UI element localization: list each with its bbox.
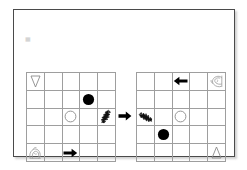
source-cell-0-1[interactable]	[45, 73, 63, 91]
arrow-left-solid-icon	[173, 73, 190, 90]
source-cell-4-0[interactable]	[27, 144, 45, 162]
source-cell-3-3[interactable]	[80, 126, 98, 144]
target-cell-4-4[interactable]	[208, 144, 226, 162]
target-cell-2-1[interactable]	[155, 109, 173, 127]
triangle-down-outline-icon	[27, 73, 44, 90]
transform-arrow-icon	[118, 108, 132, 120]
target-cell-3-4[interactable]	[208, 126, 226, 144]
source-cell-0-0[interactable]	[27, 73, 45, 91]
source-cell-4-1[interactable]	[45, 144, 63, 162]
target-cell-2-0[interactable]	[137, 109, 155, 127]
source-cell-1-2[interactable]	[63, 91, 81, 109]
target-cell-1-0[interactable]	[137, 91, 155, 109]
source-cell-3-1[interactable]	[45, 126, 63, 144]
source-cell-2-1[interactable]	[45, 109, 63, 127]
target-cell-4-1[interactable]	[155, 144, 173, 162]
target-cell-1-4[interactable]	[208, 91, 226, 109]
source-cell-2-4[interactable]	[98, 109, 116, 127]
source-cell-2-0[interactable]	[27, 109, 45, 127]
source-cell-3-0[interactable]	[27, 126, 45, 144]
source-cell-0-2[interactable]	[63, 73, 81, 91]
circle-filled-icon	[80, 91, 97, 108]
circle-filled-icon	[155, 126, 172, 143]
source-cell-0-4[interactable]	[98, 73, 116, 91]
target-cell-1-2[interactable]	[173, 91, 191, 109]
puzzle-card: ▦	[13, 9, 235, 157]
target-cell-0-0[interactable]	[137, 73, 155, 91]
source-grid[interactable]	[26, 72, 116, 162]
target-cell-2-3[interactable]	[190, 109, 208, 127]
source-cell-1-4[interactable]	[98, 91, 116, 109]
source-cell-3-4[interactable]	[98, 126, 116, 144]
faint-corner-glyph: ▦	[25, 36, 31, 42]
source-cell-2-3[interactable]	[80, 109, 98, 127]
target-cell-0-2[interactable]	[173, 73, 191, 91]
source-cell-4-4[interactable]	[98, 144, 116, 162]
target-cell-1-3[interactable]	[190, 91, 208, 109]
source-cell-0-3[interactable]	[80, 73, 98, 91]
target-cell-3-1[interactable]	[155, 126, 173, 144]
source-cell-2-2[interactable]	[63, 109, 81, 127]
target-cell-2-2[interactable]	[173, 109, 191, 127]
target-cell-0-4[interactable]	[208, 73, 226, 91]
source-cell-4-2[interactable]	[63, 144, 81, 162]
target-grid[interactable]	[136, 72, 226, 162]
target-cell-3-3[interactable]	[190, 126, 208, 144]
bird-sketch-rotated-icon	[137, 109, 154, 126]
scribble-sketch-icon	[27, 144, 44, 161]
bird-sketch-icon	[98, 109, 115, 126]
source-cell-1-0[interactable]	[27, 91, 45, 109]
target-cell-0-1[interactable]	[155, 73, 173, 91]
target-cell-4-2[interactable]	[173, 144, 191, 162]
source-cell-1-1[interactable]	[45, 91, 63, 109]
circle-outline-icon	[173, 109, 190, 126]
scribble-sketch-icon	[208, 73, 225, 90]
source-cell-1-3[interactable]	[80, 91, 98, 109]
target-cell-2-4[interactable]	[208, 109, 226, 127]
source-cell-4-3[interactable]	[80, 144, 98, 162]
target-cell-4-0[interactable]	[137, 144, 155, 162]
triangle-up-outline-icon	[208, 144, 225, 161]
target-cell-1-1[interactable]	[155, 91, 173, 109]
page-root: ▦	[0, 0, 247, 170]
circle-outline-icon	[63, 109, 80, 126]
source-cell-3-2[interactable]	[63, 126, 81, 144]
target-cell-4-3[interactable]	[190, 144, 208, 162]
target-cell-3-2[interactable]	[173, 126, 191, 144]
target-cell-3-0[interactable]	[137, 126, 155, 144]
arrow-right-solid-icon	[63, 144, 80, 161]
target-cell-0-3[interactable]	[190, 73, 208, 91]
